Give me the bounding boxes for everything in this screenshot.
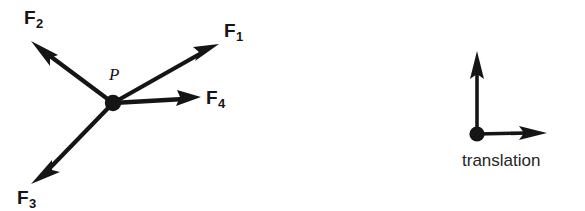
force-label-f1: F1	[224, 21, 243, 43]
translation-right-arrow	[477, 126, 547, 140]
point-p-dot	[105, 95, 121, 111]
force-label-f2: F2	[24, 8, 43, 30]
force-vector-f1	[113, 44, 219, 103]
force-label-f3: F3	[17, 188, 36, 210]
force-label-f1-subscript: 1	[236, 29, 243, 44]
f3-shaft	[47, 103, 113, 171]
f4-shaft	[113, 99, 184, 103]
figure-vector-graphics	[0, 0, 585, 211]
force-label-f1-base: F	[224, 20, 236, 41]
force-system-group	[31, 41, 219, 184]
force-label-f2-base: F	[24, 7, 36, 28]
f2-arrowhead	[31, 41, 58, 66]
translation-up-arrow	[470, 51, 484, 134]
force-vector-f3	[31, 103, 113, 184]
f4-arrowhead	[176, 90, 201, 106]
f2-shaft	[46, 53, 113, 103]
translation-origin-dot	[469, 126, 484, 141]
translation-symbol-group	[469, 51, 547, 142]
figure-canvas: F1 F2 F3 F4 P translation	[0, 0, 585, 211]
force-label-f3-subscript: 3	[29, 196, 36, 211]
point-p-label: P	[109, 66, 119, 83]
force-label-f4-subscript: 4	[218, 96, 225, 111]
force-vector-f2	[31, 41, 113, 103]
force-label-f3-base: F	[17, 187, 29, 208]
force-label-f4-base: F	[206, 87, 218, 108]
translation-caption: translation	[462, 152, 540, 169]
f1-arrowhead	[193, 44, 219, 61]
force-label-f4: F4	[206, 88, 225, 110]
force-label-f2-subscript: 2	[36, 16, 43, 31]
force-vector-f4	[113, 90, 201, 106]
